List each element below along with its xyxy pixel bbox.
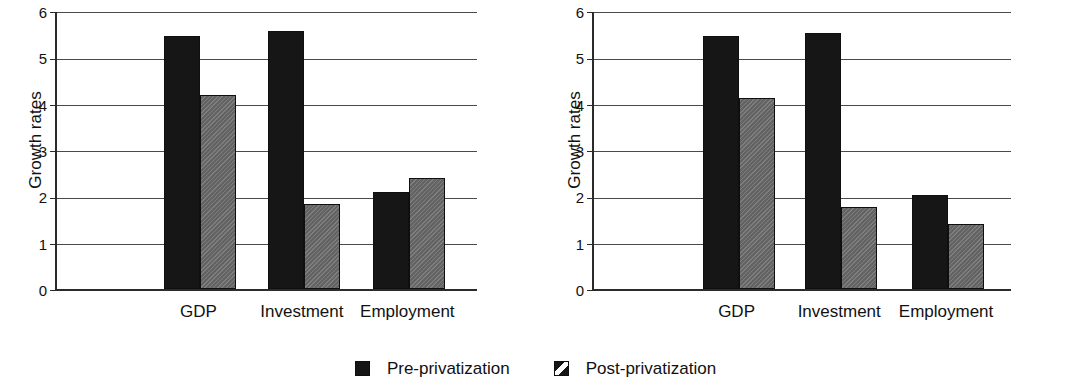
y-axis-tick <box>50 59 57 60</box>
chart-legend: Pre-privatization Post-privatization <box>0 352 1071 384</box>
y-axis-tick-label: 1 <box>23 237 47 252</box>
y-axis-tick-label: 3 <box>23 144 47 159</box>
y-axis-tick-label: 4 <box>560 98 584 113</box>
y-axis-tick <box>587 290 594 291</box>
y-axis-tick-label: 2 <box>560 190 584 205</box>
y-axis-tick <box>587 59 594 60</box>
y-axis-tick-label: 5 <box>23 51 47 66</box>
y-axis-tick <box>587 198 594 199</box>
y-axis-tick-label: 1 <box>560 237 584 252</box>
y-axis-tick-label: 3 <box>560 144 584 159</box>
solid-square-swatch-icon <box>355 361 370 376</box>
bar-employment-post-privatization <box>409 178 445 289</box>
bar-gdp-post-privatization <box>200 95 236 289</box>
bar-investment-pre-privatization <box>805 33 841 289</box>
y-axis-tick <box>50 105 57 106</box>
bar-investment-post-privatization <box>841 207 877 289</box>
y-axis-tick <box>50 290 57 291</box>
gridline <box>594 105 1011 106</box>
gridline <box>594 198 1011 199</box>
figure-two-panel-bar-charts: Growth rates 0123456 GDPInvestmentEmploy… <box>0 0 1071 388</box>
bar-investment-post-privatization <box>304 204 340 289</box>
bar-gdp-pre-privatization <box>703 36 739 289</box>
bar-employment-pre-privatization <box>373 192 409 289</box>
y-axis-tick <box>587 12 594 13</box>
y-axis-tick-label: 2 <box>23 190 47 205</box>
bar-investment-pre-privatization <box>268 31 304 289</box>
y-axis-tick-label: 5 <box>560 51 584 66</box>
y-axis-tick-label: 6 <box>560 5 584 20</box>
y-axis-tick-label: 4 <box>23 98 47 113</box>
y-axis-tick <box>587 151 594 152</box>
bar-employment-post-privatization <box>948 224 984 289</box>
plot-area-left: 0123456 <box>55 13 477 291</box>
chart-panel-right: Growth rates 0123456 GDPInvestmentEmploy… <box>530 0 1065 335</box>
bar-gdp-post-privatization <box>739 98 775 289</box>
legend-label: Post-privatization <box>586 359 716 378</box>
hatched-square-swatch-icon <box>554 361 569 376</box>
y-axis-tick-label: 0 <box>23 283 47 298</box>
y-axis-tick <box>50 151 57 152</box>
gridline <box>594 151 1011 152</box>
legend-item-post-privatization: Post-privatization <box>554 359 716 378</box>
x-axis-category-label: Employment <box>866 302 1026 321</box>
y-axis-tick <box>587 105 594 106</box>
y-axis-tick <box>50 244 57 245</box>
y-axis-tick-label: 0 <box>560 283 584 298</box>
bar-gdp-pre-privatization <box>164 36 200 289</box>
x-axis-category-label: Employment <box>327 302 487 321</box>
gridline <box>594 12 1011 13</box>
chart-panel-left: Growth rates 0123456 GDPInvestmentEmploy… <box>0 0 535 335</box>
plot-area-right: 0123456 <box>592 13 1011 291</box>
y-axis-tick-label: 6 <box>23 5 47 20</box>
y-axis-tick <box>587 244 594 245</box>
y-axis-tick <box>50 12 57 13</box>
gridline <box>57 12 477 13</box>
legend-item-pre-privatization: Pre-privatization <box>355 359 510 378</box>
bar-employment-pre-privatization <box>912 195 948 289</box>
legend-label: Pre-privatization <box>387 359 510 378</box>
gridline <box>594 59 1011 60</box>
y-axis-tick <box>50 198 57 199</box>
